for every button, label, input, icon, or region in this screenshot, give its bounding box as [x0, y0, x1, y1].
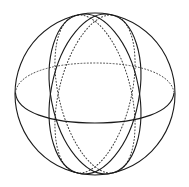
- sphere-diagram: [0, 0, 189, 187]
- figure-background: [0, 0, 189, 187]
- wireframe-sphere-figure: [0, 0, 189, 187]
